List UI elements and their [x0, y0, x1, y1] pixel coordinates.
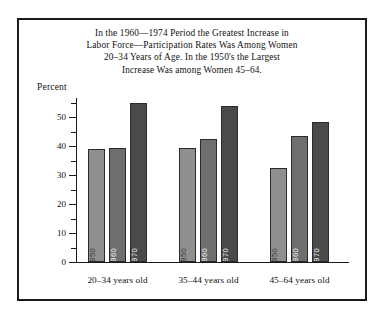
y-tick-minor	[71, 103, 76, 104]
y-tick-major	[69, 117, 76, 118]
y-tick-group-minor	[76, 190, 77, 191]
bar: 1970	[221, 106, 238, 262]
x-category-label: 45–64 years old	[269, 275, 329, 285]
bar-year-label: 1970	[221, 248, 230, 262]
y-tick-label: 20	[57, 199, 66, 209]
bar: 1960	[109, 148, 126, 262]
y-tick-major	[69, 262, 76, 263]
x-axis-category-labels: 20–34 years old35–44 years old45–64 year…	[76, 275, 349, 291]
y-tick-minor	[71, 161, 76, 162]
y-tick-major	[69, 146, 76, 147]
y-tick-label: 50	[57, 112, 66, 122]
chart-title-line-4: Increase Was among Women 45–64.	[19, 64, 365, 76]
bar: 1950	[179, 148, 196, 262]
y-tick-major	[69, 233, 76, 234]
bar: 1950	[270, 168, 287, 262]
y-tick-group: 20	[76, 204, 77, 205]
x-category-label: 35–44 years old	[178, 275, 238, 285]
bar-year-label: 1950	[270, 248, 279, 262]
y-tick-group-minor	[76, 161, 77, 162]
y-tick-minor	[71, 248, 76, 249]
y-tick-major	[69, 175, 76, 176]
y-tick-label: 10	[57, 228, 66, 238]
plot-area: 01020304050 1950196019701950196019701950…	[76, 98, 349, 263]
chart-title-line-2: Labor Force—Participation Rates Was Amon…	[19, 39, 365, 51]
bar: 1960	[291, 136, 308, 262]
y-tick-group-minor	[76, 103, 77, 104]
chart-figure: In the 1960—1974 Period the Greatest Inc…	[17, 18, 367, 301]
y-axis-label: Percent	[37, 82, 67, 92]
bar-year-label: 1960	[291, 248, 300, 262]
bar: 1950	[88, 149, 105, 262]
y-tick-group: 50	[76, 117, 77, 118]
bar: 1970	[312, 122, 329, 262]
bar-year-label: 1960	[200, 248, 209, 262]
y-tick-group-minor	[76, 248, 77, 249]
y-tick-minor	[71, 219, 76, 220]
y-tick-major	[69, 204, 76, 205]
bar: 1970	[130, 103, 147, 262]
y-tick-label: 40	[57, 141, 66, 151]
chart-title: In the 1960—1974 Period the Greatest Inc…	[19, 27, 365, 76]
y-tick-group: 40	[76, 146, 77, 147]
y-tick-group-minor	[76, 132, 77, 133]
bar-year-label: 1950	[88, 248, 97, 262]
y-tick-label: 30	[57, 170, 66, 180]
bar: 1960	[200, 139, 217, 262]
y-axis-line	[76, 98, 77, 263]
bar-year-label: 1960	[109, 248, 118, 262]
y-tick-minor	[71, 190, 76, 191]
chart-title-line-1: In the 1960—1974 Period the Greatest Inc…	[19, 27, 365, 39]
y-tick-label: 0	[62, 257, 67, 267]
x-axis-line	[76, 262, 349, 263]
bar-year-label: 1970	[130, 248, 139, 262]
bar-year-label: 1970	[312, 248, 321, 262]
chart-title-line-3: 20–34 Years of Age. In the 1950's the La…	[19, 51, 365, 63]
y-tick-group: 10	[76, 233, 77, 234]
x-category-label: 20–34 years old	[87, 275, 147, 285]
y-tick-group: 30	[76, 175, 77, 176]
bar-year-label: 1950	[179, 248, 188, 262]
y-tick-minor	[71, 132, 76, 133]
y-tick-group: 0	[76, 262, 77, 263]
y-tick-group-minor	[76, 219, 77, 220]
